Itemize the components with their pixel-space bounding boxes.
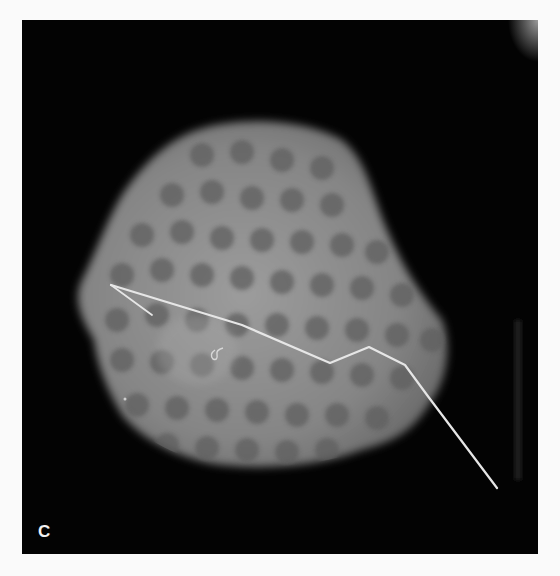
specimen-radiograph xyxy=(22,20,538,554)
radiograph-image: C xyxy=(22,20,538,554)
calcification-dot xyxy=(124,398,127,401)
lesion-area xyxy=(157,315,237,385)
corner-exposure xyxy=(488,20,538,90)
tissue-specimen xyxy=(78,121,447,467)
edge-artifact xyxy=(514,320,522,480)
panel-label: C xyxy=(38,523,50,540)
